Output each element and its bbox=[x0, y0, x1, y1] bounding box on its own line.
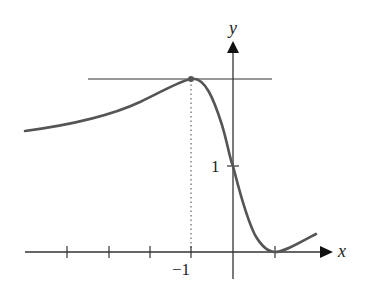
y-tick-label: 1 bbox=[211, 157, 220, 176]
maximum-point bbox=[188, 76, 194, 82]
y-axis-label: y bbox=[227, 18, 237, 38]
function-curve bbox=[25, 79, 316, 252]
x-tick-label: −1 bbox=[172, 260, 190, 279]
x-axis-label: x bbox=[337, 241, 346, 261]
x-axis-arrow-icon bbox=[320, 246, 333, 258]
function-graph: y x −1 1 bbox=[0, 0, 368, 295]
y-axis-arrow-icon bbox=[227, 41, 239, 53]
